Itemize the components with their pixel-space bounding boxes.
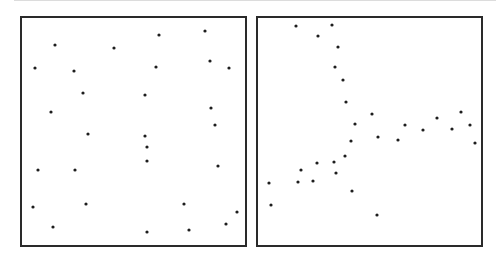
data-point [330, 23, 333, 26]
data-point [73, 168, 76, 171]
data-point [344, 100, 347, 103]
data-point [468, 123, 471, 126]
data-point [435, 116, 438, 119]
data-point [208, 59, 211, 62]
data-point [334, 171, 337, 174]
data-point [53, 43, 56, 46]
data-point [84, 202, 87, 205]
data-point [143, 93, 146, 96]
data-point [235, 210, 238, 213]
random-pattern-panel [20, 16, 247, 247]
data-point [396, 138, 399, 141]
data-point [332, 160, 335, 163]
data-point [349, 139, 352, 142]
data-point [336, 45, 339, 48]
data-point [450, 127, 453, 130]
data-point [86, 132, 89, 135]
structured-pattern-panel [256, 16, 483, 247]
data-point [224, 222, 227, 225]
data-point [216, 164, 219, 167]
data-point [353, 122, 356, 125]
data-point [421, 128, 424, 131]
data-point [227, 66, 230, 69]
data-point [33, 66, 36, 69]
data-point [182, 202, 185, 205]
data-point [157, 33, 160, 36]
data-point [187, 228, 190, 231]
data-point [343, 154, 346, 157]
data-point [51, 225, 54, 228]
data-point [154, 65, 157, 68]
data-point [145, 159, 148, 162]
data-point [311, 179, 314, 182]
data-point [294, 24, 297, 27]
data-point [145, 145, 148, 148]
data-point [213, 123, 216, 126]
data-point [341, 78, 344, 81]
data-point [143, 134, 146, 137]
data-point [370, 112, 373, 115]
data-point [459, 110, 462, 113]
data-point [49, 110, 52, 113]
data-point [375, 213, 378, 216]
random-pattern-plot [22, 18, 249, 249]
data-point [31, 205, 34, 208]
data-point [473, 141, 476, 144]
data-point [72, 69, 75, 72]
data-point [350, 189, 353, 192]
data-point [269, 203, 272, 206]
data-point [376, 135, 379, 138]
structured-pattern-plot [258, 18, 485, 249]
data-point [209, 106, 212, 109]
data-point [112, 46, 115, 49]
data-point [296, 180, 299, 183]
data-point [36, 168, 39, 171]
data-point [315, 161, 318, 164]
data-point [81, 91, 84, 94]
data-point [299, 168, 302, 171]
top-rule-divider [14, 0, 496, 1]
data-point [316, 34, 319, 37]
data-point [403, 123, 406, 126]
data-point [145, 230, 148, 233]
data-point [333, 65, 336, 68]
data-point [267, 181, 270, 184]
data-point [203, 29, 206, 32]
